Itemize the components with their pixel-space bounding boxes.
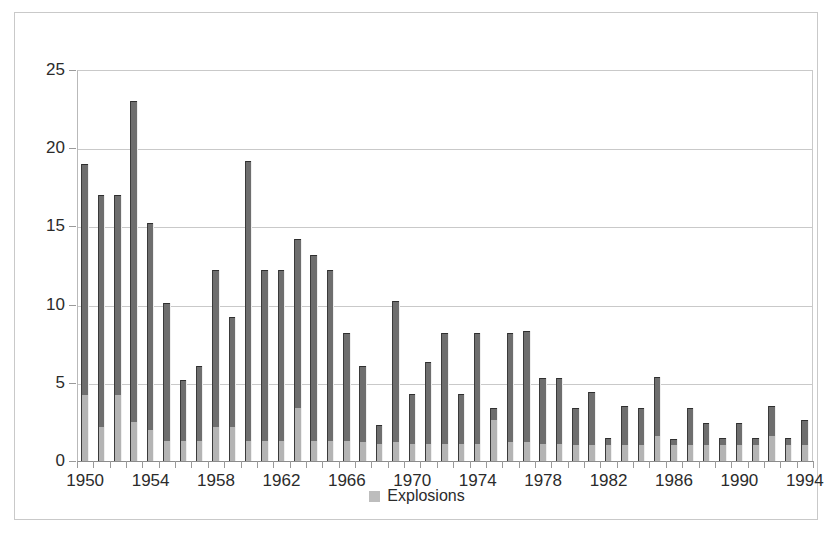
bar-upper-segment — [131, 101, 137, 422]
bar-base-segment — [164, 441, 170, 461]
bar-1960[interactable] — [245, 161, 253, 461]
bar-base-segment — [393, 442, 399, 461]
bar-1961[interactable] — [261, 270, 269, 461]
x-axis-tick — [797, 461, 798, 468]
bar-1976[interactable] — [507, 333, 515, 461]
bar-base-segment — [737, 445, 743, 461]
bar-body — [654, 377, 662, 461]
bar-1959[interactable] — [229, 317, 237, 461]
bar-1967[interactable] — [359, 366, 367, 461]
x-axis-tick — [110, 461, 111, 468]
x-axis-tick — [191, 461, 192, 468]
x-axis-tick — [208, 461, 209, 468]
bar-body — [458, 394, 466, 461]
bar-body — [523, 331, 531, 461]
bar-1971[interactable] — [425, 362, 433, 461]
x-axis-tick — [371, 461, 372, 468]
bar-body — [638, 408, 646, 461]
bar-1982[interactable] — [605, 438, 613, 461]
bar-base-segment — [344, 441, 350, 461]
bar-1954[interactable] — [147, 223, 155, 461]
x-axis-tick — [502, 461, 503, 468]
bar-upper-segment — [622, 406, 628, 445]
bar-base-segment — [279, 441, 285, 461]
plot-area — [77, 58, 815, 462]
bar-1965[interactable] — [327, 270, 335, 461]
bar-1953[interactable] — [130, 101, 138, 461]
bar-1964[interactable] — [310, 255, 318, 461]
x-axis-tick — [748, 461, 749, 468]
bar-base-segment — [475, 444, 481, 461]
bar-upper-segment — [606, 438, 612, 446]
bar-body — [621, 406, 629, 461]
bar-1956[interactable] — [180, 380, 188, 461]
legend-swatch-explosions — [369, 491, 380, 502]
bar-body — [278, 270, 286, 461]
bar-1984[interactable] — [638, 408, 646, 461]
bar-1991[interactable] — [752, 438, 760, 461]
bar-1983[interactable] — [621, 406, 629, 461]
bar-1969[interactable] — [392, 301, 400, 461]
x-axis-tick — [142, 461, 143, 468]
bar-upper-segment — [524, 331, 530, 442]
bar-1979[interactable] — [556, 378, 564, 461]
bar-1958[interactable] — [212, 270, 220, 461]
bar-upper-segment — [262, 270, 268, 440]
bar-1970[interactable] — [409, 394, 417, 461]
y-axis-tick-20 — [69, 148, 76, 149]
bar-1985[interactable] — [654, 377, 662, 461]
bar-1950[interactable] — [81, 164, 89, 461]
bar-1993[interactable] — [785, 438, 793, 461]
bar-body — [409, 394, 417, 461]
bar-1987[interactable] — [687, 408, 695, 461]
bar-body — [327, 270, 335, 461]
bar-upper-segment — [279, 270, 285, 440]
bar-1952[interactable] — [114, 195, 122, 461]
x-axis-tick — [322, 461, 323, 468]
y-axis-tick-10 — [69, 305, 76, 306]
bar-upper-segment — [508, 333, 514, 442]
bar-1977[interactable] — [523, 331, 531, 461]
bar-1955[interactable] — [163, 303, 171, 461]
bar-body — [245, 161, 253, 461]
x-axis-tick — [339, 461, 340, 468]
x-axis-tick — [584, 461, 585, 468]
bar-1994[interactable] — [801, 420, 809, 461]
bar-base-segment — [655, 436, 661, 461]
bar-1951[interactable] — [98, 195, 106, 461]
bar-base-segment — [328, 441, 334, 461]
bar-1972[interactable] — [441, 333, 449, 461]
bar-base-segment — [115, 395, 121, 461]
x-axis-tick — [551, 461, 552, 468]
bar-body — [801, 420, 809, 461]
bar-upper-segment — [720, 438, 726, 446]
y-axis-tick-0 — [69, 461, 76, 462]
bar-upper-segment — [344, 333, 350, 441]
bar-1988[interactable] — [703, 423, 711, 461]
bar-1966[interactable] — [343, 333, 351, 461]
bar-1992[interactable] — [768, 406, 776, 461]
bar-1990[interactable] — [736, 423, 744, 461]
bar-1968[interactable] — [376, 425, 384, 461]
bar-body — [343, 333, 351, 461]
bar-1962[interactable] — [278, 270, 286, 461]
bar-upper-segment — [360, 366, 366, 443]
bar-1974[interactable] — [474, 333, 482, 461]
x-axis-tick — [77, 461, 78, 468]
bar-1978[interactable] — [539, 378, 547, 461]
bar-upper-segment — [82, 164, 88, 395]
bar-1986[interactable] — [670, 439, 678, 461]
bar-base-segment — [426, 444, 432, 461]
bar-1975[interactable] — [490, 408, 498, 461]
bar-1980[interactable] — [572, 408, 580, 461]
bar-base-segment — [606, 445, 612, 461]
bar-upper-segment — [197, 366, 203, 441]
bar-1989[interactable] — [719, 438, 727, 461]
x-axis-tick — [257, 461, 258, 468]
bar-1981[interactable] — [588, 392, 596, 461]
bar-1963[interactable] — [294, 239, 302, 461]
bar-1957[interactable] — [196, 366, 204, 461]
gridline-20 — [78, 149, 812, 150]
bar-body — [768, 406, 776, 461]
bar-1973[interactable] — [458, 394, 466, 461]
